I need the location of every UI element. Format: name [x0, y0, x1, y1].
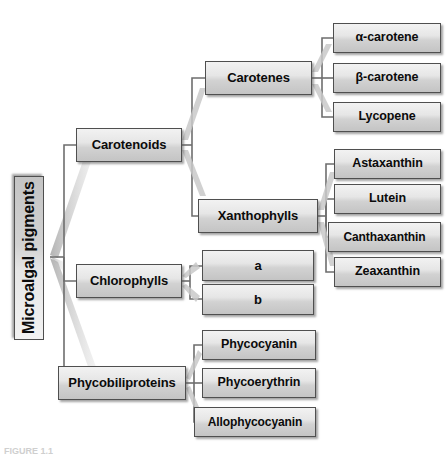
node-lutein[interactable]: Lutein: [334, 184, 441, 214]
node-label: Lycopene: [358, 110, 415, 123]
node-label: Zeaxanthin: [355, 265, 420, 278]
node-label: Lutein: [369, 192, 406, 205]
node-allophycocyanin[interactable]: Allophycocyanin: [194, 407, 316, 437]
node-xanthophylls[interactable]: Xanthophylls: [198, 199, 318, 233]
node-beta-carotene[interactable]: β-carotene: [333, 63, 441, 93]
node-carotenoids[interactable]: Carotenoids: [76, 128, 182, 162]
node-phycoerythrin[interactable]: Phycoerythrin: [202, 368, 316, 398]
connector-shadows: [50, 135, 100, 378]
figure-caption: FIGURE 1.1: [4, 446, 444, 455]
node-label: β-carotene: [356, 71, 419, 84]
node-astaxanthin[interactable]: Astaxanthin: [334, 149, 441, 179]
node-phycobiliproteins[interactable]: Phycobiliproteins: [58, 366, 186, 400]
node-label: Phycobiliproteins: [68, 376, 175, 390]
node-label: Carotenes: [227, 71, 290, 85]
node-root-microalgal-pigments[interactable]: Microalgal pigments: [14, 176, 44, 340]
node-phycocyanin[interactable]: Phycocyanin: [202, 330, 316, 360]
node-label: Chlorophylls: [90, 274, 168, 288]
node-chlorophylls[interactable]: Chlorophylls: [76, 264, 182, 298]
node-label: b: [254, 293, 262, 307]
node-label: Phycoerythrin: [218, 376, 301, 389]
node-label: a: [254, 259, 261, 273]
node-label: Canthaxanthin: [343, 231, 425, 244]
node-zeaxanthin[interactable]: Zeaxanthin: [334, 257, 441, 287]
node-label: Phycocyanin: [221, 338, 297, 351]
node-label: Carotenoids: [92, 138, 167, 152]
node-chlorophyll-a[interactable]: a: [202, 250, 314, 281]
node-label: Microalgal pigments: [21, 182, 38, 335]
node-label: Xanthophylls: [218, 209, 298, 223]
node-chlorophyll-b[interactable]: b: [202, 284, 314, 315]
node-carotenes[interactable]: Carotenes: [205, 61, 312, 95]
node-label: α-carotene: [356, 31, 419, 44]
node-label: Astaxanthin: [352, 157, 422, 170]
microalgal-pigments-diagram: Microalgal pigments Carotenoids Chloroph…: [0, 0, 447, 455]
node-lycopene[interactable]: Lycopene: [333, 102, 441, 132]
node-alpha-carotene[interactable]: α-carotene: [333, 23, 441, 53]
node-canthaxanthin[interactable]: Canthaxanthin: [328, 222, 441, 252]
node-label: Allophycocyanin: [208, 416, 303, 429]
